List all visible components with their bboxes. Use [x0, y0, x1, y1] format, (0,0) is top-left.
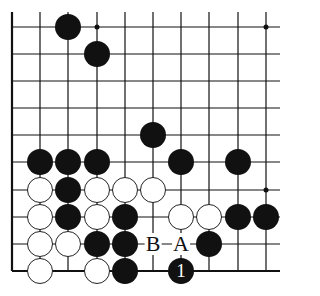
- star-point: [264, 188, 269, 193]
- black-stone: 1: [168, 258, 194, 284]
- white-stone: [27, 204, 53, 230]
- black-stone: [112, 258, 138, 284]
- black-stone: [27, 149, 53, 175]
- white-stone: [196, 204, 222, 230]
- black-stone: [140, 122, 166, 148]
- black-stone: [55, 204, 81, 230]
- white-stone: [27, 177, 53, 203]
- black-stone: [84, 41, 110, 67]
- black-stone: [196, 231, 222, 257]
- star-point: [264, 25, 269, 30]
- black-stone: [253, 204, 279, 230]
- black-stone: [112, 231, 138, 257]
- white-stone: [84, 204, 110, 230]
- white-stone: [140, 177, 166, 203]
- black-stone: [84, 231, 110, 257]
- black-stone: [225, 149, 251, 175]
- black-stone: [55, 14, 81, 40]
- black-stone: [225, 204, 251, 230]
- white-stone: [27, 258, 53, 284]
- white-stone: [27, 231, 53, 257]
- white-stone: [112, 177, 138, 203]
- black-stone: [55, 149, 81, 175]
- white-stone: [55, 231, 81, 257]
- white-stone: [168, 204, 194, 230]
- move-number: 1: [168, 258, 194, 284]
- black-stone: [84, 149, 110, 175]
- black-stone: [112, 204, 138, 230]
- point-label-a: A: [172, 233, 190, 255]
- white-stone: [84, 177, 110, 203]
- black-stone: [55, 177, 81, 203]
- white-stone: [84, 258, 110, 284]
- black-stone: [168, 149, 194, 175]
- star-point: [95, 25, 100, 30]
- point-label-b: B: [145, 233, 162, 255]
